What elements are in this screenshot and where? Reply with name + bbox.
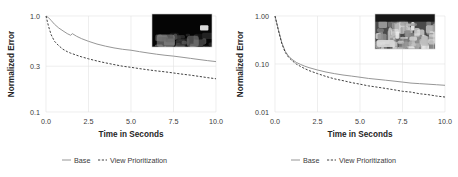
- figure-container: 0.02.55.07.510.01.00.30.1Time in Seconds…: [0, 0, 458, 177]
- legend-label-base: Base: [303, 156, 319, 165]
- xtick-label: 5.0: [126, 117, 136, 126]
- chart-panel-left: 0.02.55.07.510.01.00.30.1Time in Seconds…: [0, 0, 229, 177]
- xtick-label: 10.0: [438, 117, 452, 126]
- ytick-label: 1.00: [255, 12, 269, 21]
- ytick-label: 1.0: [30, 12, 40, 21]
- xtick-label: 7.5: [398, 117, 408, 126]
- legend-label-view-prioritization: View Prioritization: [339, 156, 396, 165]
- legend-label-view-prioritization: View Prioritization: [110, 156, 167, 165]
- xtick-label: 10.0: [209, 117, 223, 126]
- y-axis-title: Normalized Error: [236, 30, 245, 97]
- xtick-label: 2.5: [313, 117, 323, 126]
- xtick-label: 0.0: [41, 117, 51, 126]
- legend: BaseView Prioritization: [291, 156, 396, 165]
- ytick-label: 0.10: [255, 60, 269, 69]
- ytick-label: 0.1: [30, 108, 40, 117]
- xtick-label: 0.0: [270, 117, 280, 126]
- x-axis-title: Time in Seconds: [99, 130, 164, 139]
- inset-image-right: [375, 14, 441, 56]
- xtick-label: 5.0: [355, 117, 365, 126]
- chart-panel-right: 0.02.55.07.510.01.000.100.01Time in Seco…: [229, 0, 458, 177]
- xtick-label: 2.5: [84, 117, 94, 126]
- xtick-label: 7.5: [169, 117, 179, 126]
- x-axis-title: Time in Seconds: [328, 130, 393, 139]
- legend: BaseView Prioritization: [62, 156, 167, 165]
- legend-label-base: Base: [74, 156, 90, 165]
- ytick-label: 0.3: [30, 62, 40, 71]
- ytick-label: 0.01: [255, 108, 269, 117]
- y-axis-title: Normalized Error: [7, 30, 16, 97]
- inset-image-left: [152, 14, 219, 53]
